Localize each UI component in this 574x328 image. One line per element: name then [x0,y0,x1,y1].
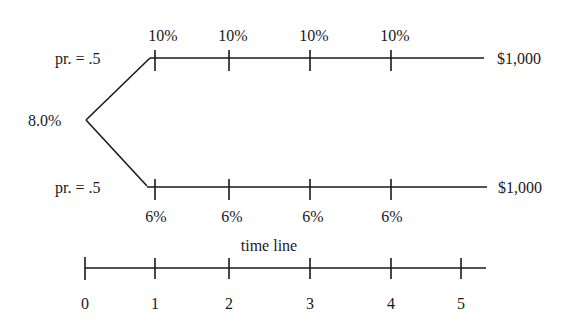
timeline-tick-0: 0 [81,296,89,312]
down-rate-2: 6% [221,209,242,225]
down-rate-4: 6% [381,209,402,225]
timeline-tick-1: 1 [151,296,159,312]
up-terminal-value: $1,000 [497,51,541,67]
timeline-title: time line [241,238,297,254]
timeline-tick-5: 5 [457,296,465,312]
timeline-tick-4: 4 [387,296,395,312]
timeline-tick-3: 3 [306,296,314,312]
up-rate-4: 10% [380,28,409,44]
down-probability-label: pr. = .5 [55,180,100,196]
down-terminal-value: $1,000 [498,180,542,196]
up-rate-1: 10% [148,28,177,44]
down-rate-3: 6% [302,209,323,225]
up-rate-3: 10% [299,28,328,44]
timeline-tick-2: 2 [225,296,233,312]
down-branch-diagonal [86,120,147,186]
up-branch-diagonal [86,58,150,120]
up-rate-2: 10% [218,28,247,44]
root-rate-label: 8.0% [28,113,61,129]
down-rate-1: 6% [145,209,166,225]
up-probability-label: pr. = .5 [55,51,100,67]
